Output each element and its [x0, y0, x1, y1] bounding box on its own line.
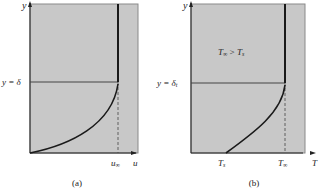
- panel-b: y y = δt T∞ > Ts Ts T∞ T (b): [156, 0, 318, 188]
- panel-b-x-arrow-icon: [310, 151, 316, 155]
- panel-a: y y = δ u∞ u (a): [1, 0, 138, 188]
- panel-a-caption: (a): [72, 178, 82, 188]
- panel-b-caption: (b): [249, 178, 260, 188]
- panel-a-x-label: u: [133, 158, 138, 168]
- panel-b-background: [191, 4, 305, 153]
- panel-a-y-label: y: [21, 0, 27, 11]
- panel-b-y-label: y: [182, 0, 188, 11]
- panel-b-boundary-label: y = δt: [156, 78, 178, 88]
- panel-b-freestream-label: T∞: [278, 158, 288, 168]
- panel-a-boundary-label: y = δ: [1, 77, 22, 87]
- boundary-layer-figure: y y = δ u∞ u (a) y y = δt T∞ > Ts Ts T∞ …: [0, 0, 324, 195]
- panel-b-condition-label: T∞ > Ts: [218, 47, 245, 57]
- panel-a-freestream-label: u∞: [111, 158, 121, 168]
- panel-b-surface-label: Ts: [218, 158, 226, 168]
- panel-a-background: [30, 4, 138, 153]
- panel-b-x-label: T: [312, 158, 318, 168]
